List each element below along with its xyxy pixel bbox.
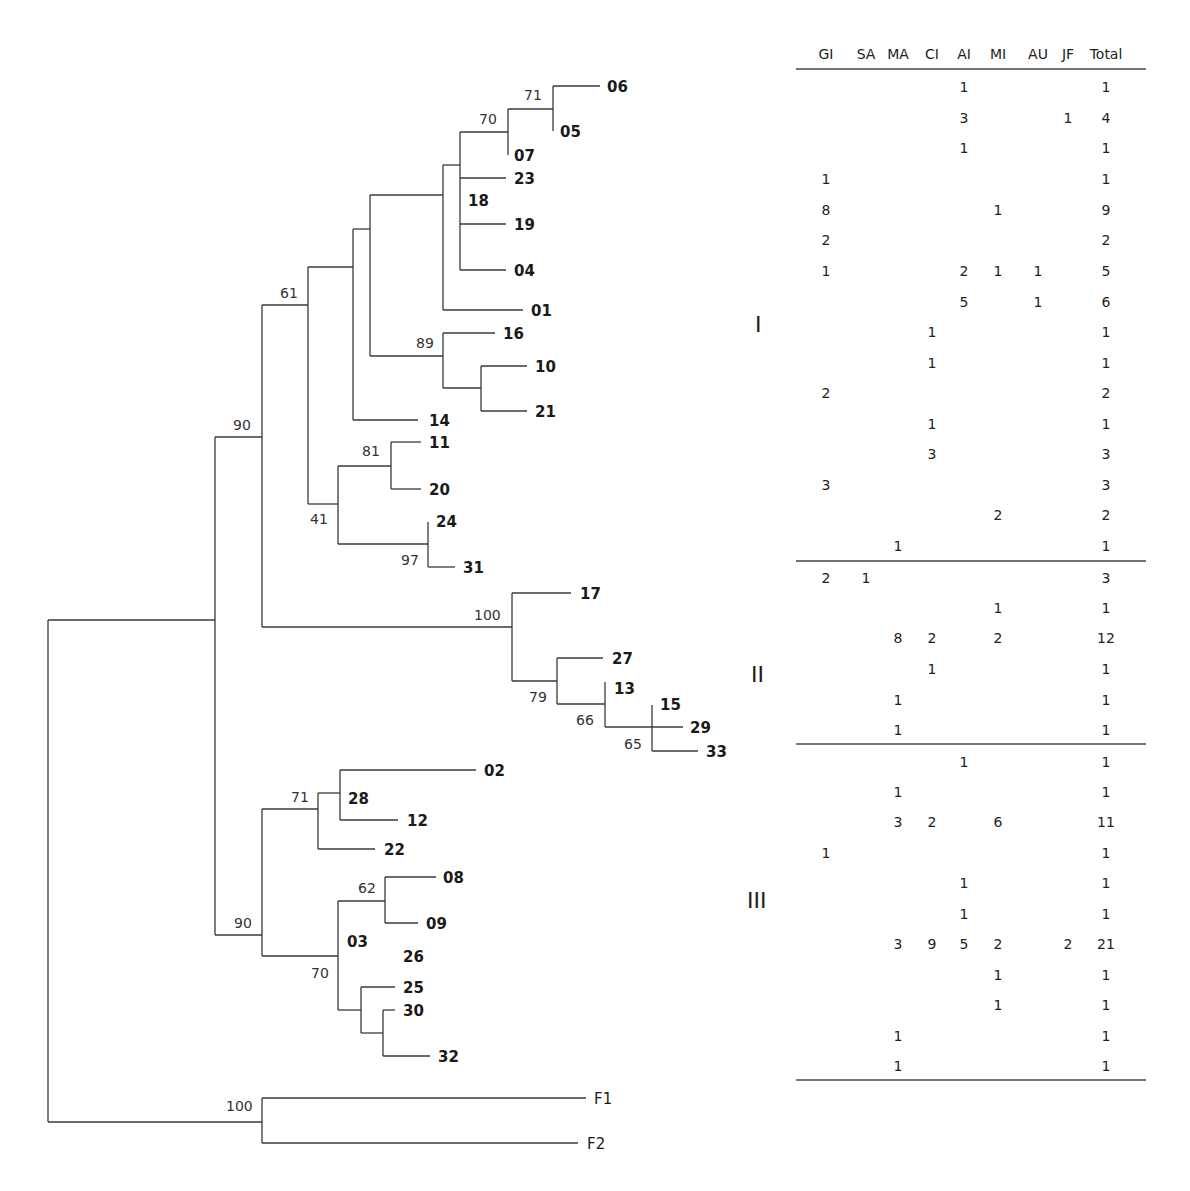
tip-label: 25 (403, 979, 424, 997)
table-cell-total: 2 (1102, 507, 1111, 523)
table-cell-total: 1 (1102, 355, 1111, 371)
table-cell-ma: 1 (894, 1058, 903, 1074)
tip-label: 09 (426, 915, 447, 933)
table-row: 11 (894, 692, 1111, 708)
table-cell-total: 1 (1102, 1028, 1111, 1044)
table-cell-total: 1 (1102, 845, 1111, 861)
table-cell-ci: 2 (928, 630, 937, 646)
tip-label: 29 (690, 719, 711, 737)
tip-label: 05 (560, 123, 581, 141)
table-cell-total: 12 (1097, 630, 1115, 646)
table-row: 11 (960, 754, 1111, 770)
table-cell-total: 2 (1102, 232, 1111, 248)
table-cell-total: 3 (1102, 570, 1111, 586)
table-cell-ci: 3 (928, 446, 937, 462)
table-cell-total: 1 (1102, 967, 1111, 983)
table-cell-mi: 2 (994, 507, 1003, 523)
tip-label: 04 (514, 262, 535, 280)
table-cell-ai: 1 (960, 906, 969, 922)
table-row: 33 (822, 477, 1111, 493)
clade-label-II: II (751, 662, 764, 687)
column-header: MI (990, 46, 1006, 62)
distribution-table: 1131411118192212115516111122113333221121… (822, 79, 1115, 1074)
table-cell-gi: 8 (822, 202, 831, 218)
table-cell-ma: 1 (894, 784, 903, 800)
table-header: GISAMACIAIMIAUJFTotal (819, 46, 1123, 62)
table-row: 11 (994, 967, 1111, 983)
column-header: GI (819, 46, 834, 62)
table-cell-total: 3 (1102, 446, 1111, 462)
table-cell-total: 1 (1102, 906, 1111, 922)
table-row: 11 (960, 875, 1111, 891)
tree-branches (48, 86, 698, 1143)
outgroup-label: F1 (594, 1090, 612, 1108)
table-cell-total: 5 (1102, 263, 1111, 279)
bootstrap-value: 65 (624, 736, 642, 752)
table-row: 11 (960, 140, 1111, 156)
table-row: 11 (894, 1058, 1111, 1074)
table-cell-mi: 1 (994, 967, 1003, 983)
bootstrap-value: 79 (529, 689, 547, 705)
table-cell-mi: 1 (994, 202, 1003, 218)
table-cell-au: 1 (1034, 294, 1043, 310)
column-header: Total (1089, 46, 1123, 62)
tip-label: 23 (514, 170, 535, 188)
bootstrap-value: 89 (416, 335, 434, 351)
table-cell-total: 1 (1102, 140, 1111, 156)
tip-labels: 06 05 07 23 18 19 04 01 16 10 21 14 11 2… (347, 78, 727, 1153)
table-row: 11 (894, 722, 1111, 738)
bootstrap-value: 71 (291, 789, 309, 805)
table-cell-au: 1 (1034, 263, 1043, 279)
bootstrap-value: 66 (576, 712, 594, 728)
tip-label: 17 (580, 585, 601, 603)
tip-label: 13 (614, 680, 635, 698)
table-cell-total: 11 (1097, 814, 1115, 830)
table-cell-mi: 2 (994, 630, 1003, 646)
tip-label: 30 (403, 1002, 424, 1020)
table-cell-ci: 1 (928, 324, 937, 340)
phylogenetic-tree: 06 05 07 23 18 19 04 01 16 10 21 14 11 2… (0, 0, 1190, 1191)
tip-label: 11 (429, 434, 450, 452)
bootstrap-value: 70 (479, 111, 497, 127)
column-header: CI (925, 46, 939, 62)
table-cell-total: 1 (1102, 875, 1111, 891)
table-cell-gi: 1 (822, 263, 831, 279)
table-cell-mi: 1 (994, 263, 1003, 279)
table-cell-mi: 1 (994, 997, 1003, 1013)
tip-label: 24 (436, 513, 457, 531)
table-cell-ci: 1 (928, 661, 937, 677)
table-cell-ma: 1 (894, 722, 903, 738)
table-row: 819 (822, 202, 1111, 218)
table-cell-mi: 1 (994, 600, 1003, 616)
table-row: 3952221 (894, 936, 1115, 952)
table-cell-mi: 6 (994, 814, 1003, 830)
table-cell-ai: 1 (960, 79, 969, 95)
tip-label: 28 (348, 790, 369, 808)
table-cell-total: 1 (1102, 661, 1111, 677)
table-row: 11 (928, 324, 1111, 340)
table-row: 11 (928, 661, 1111, 677)
table-cell-total: 1 (1102, 171, 1111, 187)
tip-label: 06 (607, 78, 628, 96)
column-header: MA (887, 46, 909, 62)
tip-label: 26 (403, 948, 424, 966)
tip-label: 32 (438, 1048, 459, 1066)
tip-label: 21 (535, 403, 556, 421)
table-cell-ai: 1 (960, 140, 969, 156)
table-row: 82212 (894, 630, 1115, 646)
tip-label: 10 (535, 358, 556, 376)
table-cell-total: 4 (1102, 110, 1111, 126)
table-cell-ci: 2 (928, 814, 937, 830)
tip-label: 08 (443, 869, 464, 887)
column-header: SA (857, 46, 876, 62)
bootstrap-value: 61 (280, 285, 298, 301)
column-header: JF (1061, 46, 1074, 62)
table-cell-total: 1 (1102, 600, 1111, 616)
table-row: 33 (928, 446, 1111, 462)
table-cell-total: 1 (1102, 324, 1111, 340)
table-cell-gi: 3 (822, 477, 831, 493)
table-cell-ai: 5 (960, 936, 969, 952)
table-cell-ai: 5 (960, 294, 969, 310)
tip-label: 19 (514, 216, 535, 234)
tip-label: 01 (531, 302, 552, 320)
